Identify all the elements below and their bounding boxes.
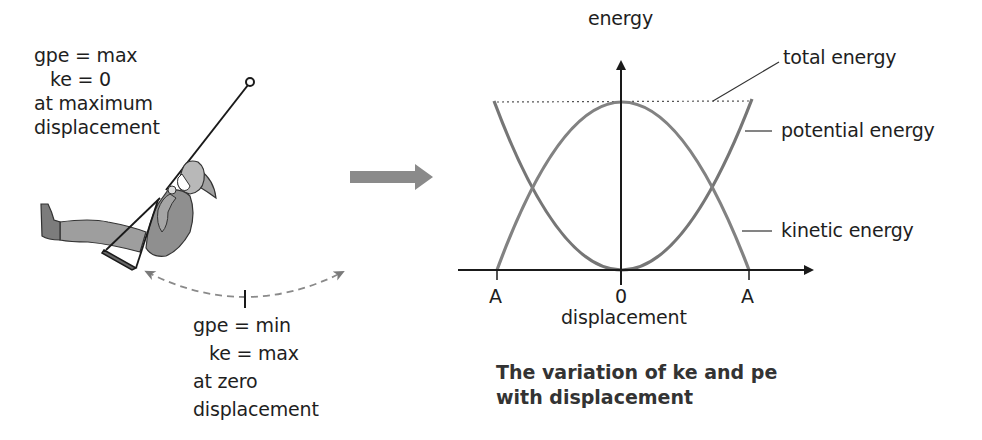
swing-rope bbox=[166, 85, 248, 190]
max-displacement-note: gpe = max ke = 0 at maximum displacement bbox=[34, 43, 160, 139]
x-tick-label-left: A bbox=[489, 284, 502, 308]
note-zero-displacement: displacement bbox=[193, 395, 319, 423]
leader-total-energy bbox=[713, 62, 779, 101]
note-displacement: displacement bbox=[34, 115, 160, 139]
x-axis-label: displacement bbox=[561, 305, 687, 329]
legend-total-energy: total energy bbox=[783, 45, 896, 69]
note-gpe-min: gpe = min bbox=[193, 311, 319, 339]
girl-shoe bbox=[41, 204, 60, 240]
swing-seat bbox=[102, 250, 136, 270]
caption-line-2: with displacement bbox=[496, 385, 777, 410]
note-gpe-max: gpe = max bbox=[34, 43, 160, 67]
graph-caption: The variation of ke and pe with displace… bbox=[496, 360, 777, 410]
note-at-maximum: at maximum bbox=[34, 91, 160, 115]
note-ke-max: ke = max bbox=[193, 339, 319, 367]
x-tick-label-right: A bbox=[741, 284, 754, 308]
note-ke-zero: ke = 0 bbox=[34, 67, 160, 91]
kinetic-energy-curve bbox=[497, 102, 749, 270]
energy-graph bbox=[458, 62, 812, 285]
zero-displacement-note: gpe = min ke = max at zero displacement bbox=[193, 311, 319, 423]
caption-line-1: The variation of ke and pe bbox=[496, 360, 777, 385]
note-at-zero: at zero bbox=[193, 367, 319, 395]
legend-potential-energy: potential energy bbox=[781, 118, 935, 142]
y-axis-label: energy bbox=[588, 6, 653, 30]
girl-hand bbox=[168, 186, 176, 194]
legend-kinetic-energy: kinetic energy bbox=[781, 218, 914, 242]
right-arrow-icon bbox=[350, 164, 433, 190]
